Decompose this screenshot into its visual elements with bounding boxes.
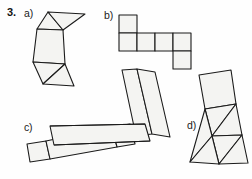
square-top [119,15,137,33]
figure-d-net [190,70,248,164]
square-middle [33,29,65,64]
worksheet-page: 3. a) b) c) d) [0,0,252,179]
square-row-1 [119,33,137,51]
figure-a-net [33,12,85,86]
square-row-2 [137,33,155,51]
square-top [199,70,236,109]
square-row-4 [173,33,191,51]
nets-figure-group [0,0,252,179]
square-bottom [173,51,191,69]
square-row-3 [155,33,173,51]
figure-b-net [119,15,191,69]
